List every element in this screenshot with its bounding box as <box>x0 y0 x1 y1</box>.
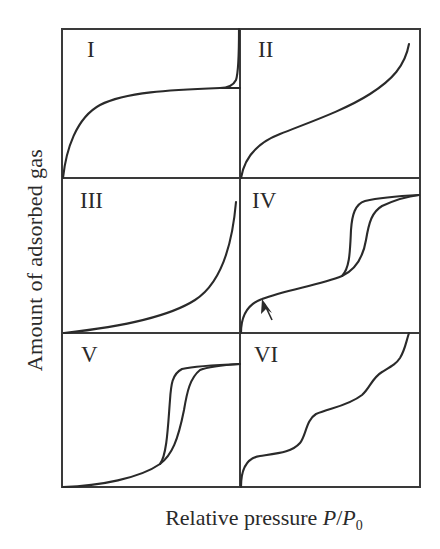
adsorption-isotherms-figure: Amount of adsorbed gas I II III IV <box>0 0 440 549</box>
panel-label-iv: IV <box>252 188 277 213</box>
y-axis-label: Amount of adsorbed gas <box>22 149 47 371</box>
x-axis-symbol-p: P <box>322 505 336 530</box>
panel-iv: IV <box>241 188 419 333</box>
panel-grid <box>62 29 420 487</box>
panel-v: V <box>63 342 240 487</box>
x-axis-label-text: Relative pressure <box>165 505 323 530</box>
panel-ii: II <box>241 37 409 178</box>
isotherm-type-ii-curve <box>241 44 409 178</box>
figure-canvas: Amount of adsorbed gas I II III IV <box>0 0 440 549</box>
x-axis-symbol-p0: P <box>341 505 355 530</box>
panel-label-vi: VI <box>254 342 278 367</box>
isotherm-type-v-adsorption-branch <box>63 364 240 487</box>
panel-label-i: I <box>87 37 95 62</box>
panel-iii: III <box>64 188 236 333</box>
x-axis-subscript: 0 <box>356 518 363 533</box>
isotherm-type-iii-curve <box>64 202 236 333</box>
panel-label-iii: III <box>80 188 103 213</box>
panel-vi: VI <box>241 333 409 487</box>
panel-label-ii: II <box>258 37 273 62</box>
x-axis-label: Relative pressure P/P0 <box>165 505 363 533</box>
panel-label-v: V <box>81 342 98 367</box>
arrow-icon <box>261 299 272 320</box>
panel-i: I <box>63 29 240 178</box>
